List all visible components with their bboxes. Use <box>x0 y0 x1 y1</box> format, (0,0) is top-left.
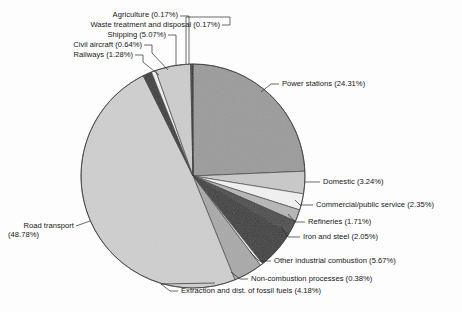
label-refineries: Refineries (1.71%) <box>308 217 371 226</box>
leader-line-road-transport <box>76 221 90 226</box>
label-agriculture: Agriculture (0.17%) <box>0 10 178 19</box>
label-road-transport-name: Road transport <box>23 221 74 230</box>
label-waste-treatment: Waste treatment and disposal (0.17%) <box>0 20 220 29</box>
label-commercial-public-service: Commercial/public service (2.35%) <box>316 200 434 209</box>
pie-chart-figure: Agriculture (0.17%) Waste treatment and … <box>0 0 462 312</box>
label-shipping: Shipping (5.07%) <box>0 30 166 39</box>
label-other-industrial-combustion: Other industrial combustion (5.67%) <box>274 256 396 265</box>
label-civil-aircraft: Civil aircraft (0.64%) <box>0 40 142 49</box>
label-non-combustion-processes: Non-combustion processes (0.38%) <box>251 274 372 283</box>
label-iron-and-steel: Iron and steel (2.05%) <box>303 232 378 241</box>
leader-line-railways <box>135 55 159 75</box>
label-road-transport: Road transport (48.78%) <box>8 221 74 240</box>
pie-slices-group <box>81 64 305 288</box>
label-power-stations: Power stations (24.31%) <box>282 79 365 88</box>
label-extraction-fossil-fuels: Extraction and dist. of fossil fuels (4.… <box>181 286 321 295</box>
label-domestic: Domestic (3.24%) <box>323 177 384 186</box>
label-road-transport-value: (48.78%) <box>8 230 74 239</box>
label-railways: Railways (1.28%) <box>0 50 133 59</box>
leader-line-shipping <box>168 35 176 66</box>
leader-line-civil-aircraft <box>144 45 168 70</box>
